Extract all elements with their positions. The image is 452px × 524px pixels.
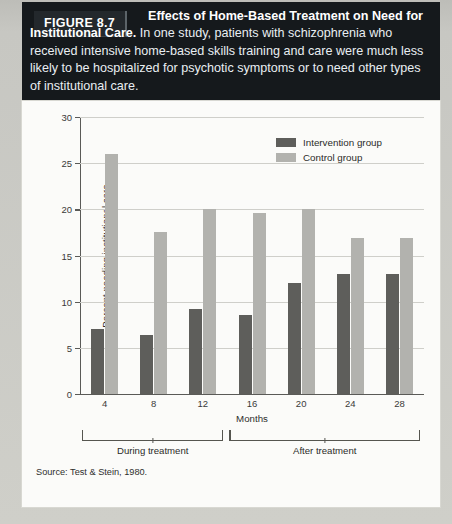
gridline-20 bbox=[80, 209, 424, 210]
y-tick-0 bbox=[75, 394, 80, 395]
y-tick-label-25: 25 bbox=[61, 158, 72, 169]
x-tick-label-28: 28 bbox=[394, 398, 405, 409]
bar-control-month-28 bbox=[400, 238, 413, 394]
bar-intervention-month-8 bbox=[140, 335, 153, 393]
legend-item-control: Control group bbox=[276, 152, 382, 163]
y-tick-label-30: 30 bbox=[61, 112, 72, 123]
legend-swatch-intervention-icon bbox=[276, 138, 296, 147]
y-tick-20 bbox=[75, 209, 80, 210]
legend-label-intervention: Intervention group bbox=[303, 137, 382, 148]
source-note: Source: Test & Stein, 1980. bbox=[36, 467, 147, 477]
x-axis-line bbox=[80, 394, 424, 395]
x-tick-label-8: 8 bbox=[151, 398, 156, 409]
bracket-label-during: During treatment bbox=[117, 445, 188, 456]
x-tick-label-12: 12 bbox=[198, 398, 209, 409]
bar-intervention-month-24 bbox=[337, 274, 350, 394]
bar-intervention-month-4 bbox=[91, 329, 104, 394]
chart-legend: Intervention group Control group bbox=[276, 137, 382, 167]
bar-control-month-12 bbox=[203, 209, 216, 394]
x-tick-label-4: 4 bbox=[102, 398, 107, 409]
bracket-label-after: After treatment bbox=[293, 445, 356, 456]
figure-caption-text: Effects of Home-Based Treatment on Need … bbox=[22, 8, 444, 95]
bracket-during-treatment: During treatment bbox=[82, 430, 223, 443]
y-tick-label-5: 5 bbox=[67, 342, 72, 353]
bracket-after-treatment: After treatment bbox=[229, 430, 420, 443]
y-tick-30 bbox=[75, 117, 80, 118]
y-tick-5 bbox=[75, 348, 80, 349]
bar-intervention-month-16 bbox=[239, 315, 252, 393]
chart-card: Percent needing institutional care 05101… bbox=[22, 101, 440, 507]
bar-control-month-16 bbox=[253, 213, 266, 394]
y-tick-10 bbox=[75, 302, 80, 303]
figure-page: FIGURE 8.7 Effects of Home-Based Treatme… bbox=[0, 0, 452, 524]
bar-control-month-8 bbox=[154, 232, 167, 394]
y-tick-label-0: 0 bbox=[67, 389, 72, 400]
x-axis-title: Months bbox=[236, 413, 268, 424]
gridline-30 bbox=[80, 117, 424, 118]
bar-control-month-4 bbox=[105, 154, 118, 394]
figure-caption-band: FIGURE 8.7 Effects of Home-Based Treatme… bbox=[22, 2, 440, 100]
legend-item-intervention: Intervention group bbox=[276, 137, 382, 148]
x-tick-label-16: 16 bbox=[247, 398, 258, 409]
bar-intervention-month-12 bbox=[189, 309, 202, 394]
bar-intervention-month-28 bbox=[386, 274, 399, 394]
y-tick-label-10: 10 bbox=[61, 296, 72, 307]
legend-label-control: Control group bbox=[303, 152, 362, 163]
y-tick-25 bbox=[75, 163, 80, 164]
bar-control-month-24 bbox=[351, 238, 364, 394]
bar-control-month-20 bbox=[302, 209, 315, 394]
y-tick-label-20: 20 bbox=[61, 204, 72, 215]
legend-swatch-control-icon bbox=[276, 153, 296, 162]
x-tick-label-20: 20 bbox=[296, 398, 307, 409]
chart-plot-area: Percent needing institutional care 05101… bbox=[80, 117, 424, 395]
y-tick-label-15: 15 bbox=[61, 250, 72, 261]
bar-intervention-month-20 bbox=[288, 283, 301, 394]
y-tick-15 bbox=[75, 256, 80, 257]
x-tick-label-24: 24 bbox=[345, 398, 356, 409]
